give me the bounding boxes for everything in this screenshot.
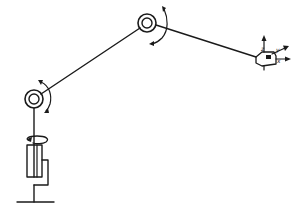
base [17, 160, 54, 202]
wrist-frame-origin [266, 55, 271, 59]
shoulder-inner-ring [29, 94, 39, 104]
x-axis-label: x [276, 57, 281, 64]
shoulder-joint [25, 80, 51, 113]
upper-arm-link [41, 28, 140, 94]
x-axis-arrowhead-icon [285, 57, 291, 62]
elbow-outer-ring [138, 14, 156, 32]
base-bracket [34, 160, 48, 185]
end-effector: z y x [256, 35, 291, 70]
elbow-inner-ring [142, 18, 152, 28]
elbow-joint [138, 6, 167, 46]
waist-joint [27, 136, 48, 177]
y-axis-label: y [275, 46, 280, 54]
z-axis-arrowhead-icon [262, 35, 267, 41]
forearm-link [156, 25, 256, 57]
elbow-arrowhead-bottom-icon [149, 41, 154, 46]
shoulder-outer-ring [25, 90, 43, 108]
robot-arm-diagram: z y x [0, 0, 306, 214]
